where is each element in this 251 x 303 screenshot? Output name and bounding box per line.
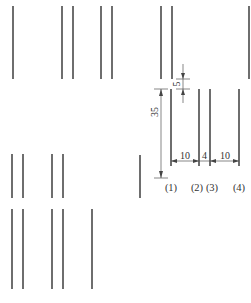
dimension-spacing: 10 4 10 <box>171 150 239 163</box>
dimension-gap: 5 <box>171 64 190 103</box>
dimension-gap-label: 5 <box>171 82 182 87</box>
label-2: (2) <box>191 182 204 194</box>
spacing-1-2-label: 10 <box>180 150 190 161</box>
dimension-length-label: 35 <box>149 107 160 117</box>
dimension-length: 35 <box>149 89 168 178</box>
label-3: (3) <box>206 182 219 194</box>
top-row-lines <box>13 6 249 79</box>
bottom-row-lines <box>12 209 92 289</box>
line-labels: (1) (2) (3) (4) <box>165 182 246 194</box>
label-4: (4) <box>233 182 246 194</box>
lower-pair-lines <box>12 154 63 198</box>
spacing-2-3-label: 4 <box>202 150 207 161</box>
label-1: (1) <box>165 182 178 194</box>
spacing-3-4-label: 10 <box>220 150 230 161</box>
line-pattern-diagram: 35 5 10 4 10 (1) (2) (3) (4) <box>0 0 251 303</box>
